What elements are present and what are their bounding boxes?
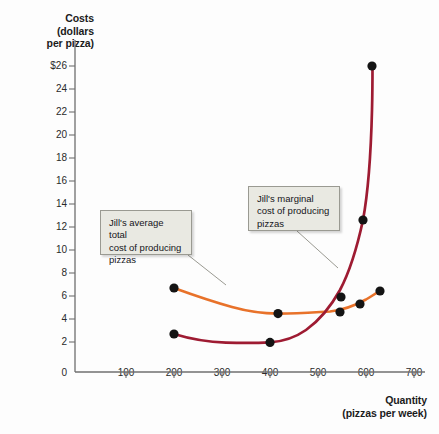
mc-point-590 [358, 215, 367, 224]
atc-annotation-callout: Jill's average total cost of producing p… [100, 210, 192, 255]
atc-data-markers [169, 283, 384, 318]
mc-annotation-line-3: pizzas [257, 218, 332, 230]
mc-point-450 [265, 338, 274, 347]
mc-annotation-line-1: Jill's marginal [257, 193, 332, 205]
atc-point-620 [375, 286, 384, 295]
mc-annotation-callout: Jill's marginal cost of producing pizzas [248, 186, 340, 231]
atc-annotation-line-3: pizzas [109, 254, 184, 266]
mc-callout-leader-line [297, 231, 338, 268]
atc-annotation-line-2: cost of producing [109, 242, 184, 254]
mc-annotation-line-2: cost of producing [257, 205, 332, 217]
x-axis-ticks [126, 372, 414, 378]
mc-point-550 [336, 292, 345, 301]
y-axis-ticks [69, 66, 75, 342]
atc-callout-leader-line [188, 255, 226, 285]
atc-annotation-line-1: Jill's average total [109, 217, 184, 242]
atc-point-450 [273, 309, 282, 318]
atc-point-200 [169, 283, 178, 292]
mc-point-620 [367, 61, 376, 70]
mc-point-200 [169, 329, 178, 338]
atc-point-550 [335, 307, 344, 316]
chart-canvas: Costs (dollars per pizza) Quantity (pizz… [0, 0, 439, 434]
atc-point-580 [355, 299, 364, 308]
plot-area [0, 0, 439, 434]
